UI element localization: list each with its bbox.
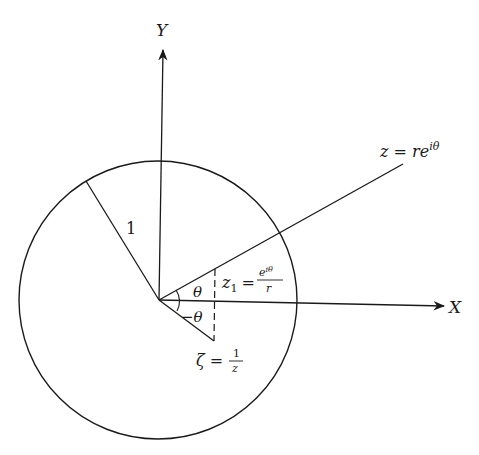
unit-circle [19,161,297,439]
zeta-label: ζ = [196,351,223,370]
z1-denominator: r [266,282,272,295]
zeta-denominator: z [231,362,238,375]
radius-label: 1 [126,219,136,238]
zeta-numerator: 1 [233,347,240,360]
radius-line [86,181,159,300]
y-axis [159,50,163,300]
z-label: z = reiθ [379,140,440,161]
y-axis-label: Y [156,20,169,40]
theta-label: θ [193,283,202,301]
z1-label: z1= [221,273,255,295]
z1-numerator: eiθ [259,265,273,279]
neg-theta-label: −θ [181,308,203,326]
x-axis-label: X [447,297,462,317]
inversion-diagram: Y X 1 z = reiθ z1= eiθ r θ −θ ζ = 1 z [0,0,479,455]
conjugate-dashed-line [214,269,215,341]
diagram-canvas: Y X 1 z = reiθ z1= eiθ r θ −θ ζ = 1 z [0,0,479,455]
